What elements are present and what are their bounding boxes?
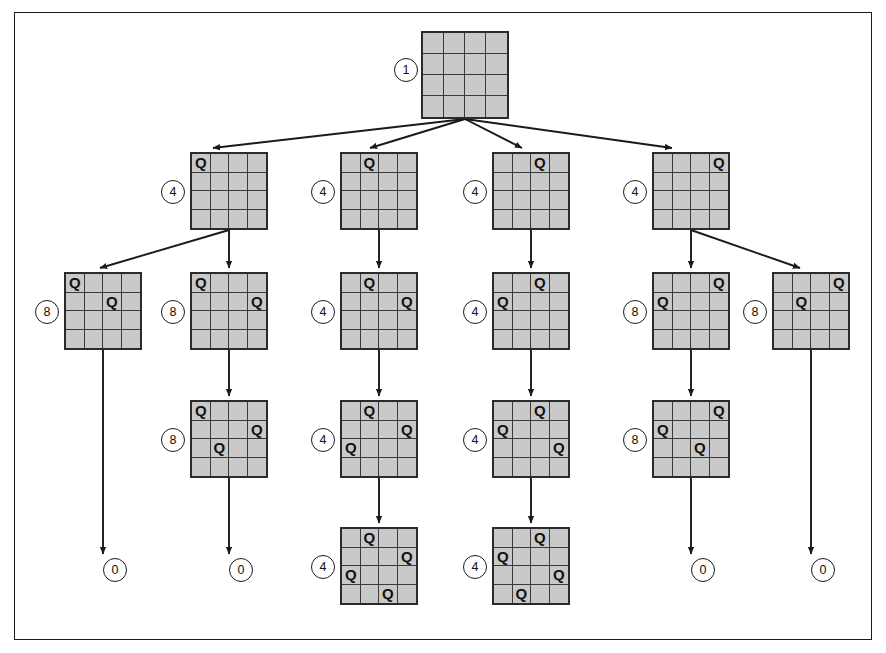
board-cell[interactable] bbox=[830, 293, 849, 312]
board-cell[interactable] bbox=[494, 529, 513, 548]
board-cell[interactable] bbox=[379, 421, 398, 440]
board-cell[interactable] bbox=[398, 402, 417, 421]
board-cell[interactable] bbox=[229, 173, 248, 192]
board-cell[interactable] bbox=[513, 458, 532, 477]
board-cell[interactable] bbox=[398, 566, 417, 585]
board-cell[interactable]: Q bbox=[103, 293, 122, 312]
board-cell[interactable] bbox=[494, 274, 513, 293]
board-cell[interactable] bbox=[229, 458, 248, 477]
board-cell[interactable] bbox=[398, 210, 417, 229]
board-cell[interactable] bbox=[342, 210, 361, 229]
board-cell[interactable] bbox=[494, 585, 513, 604]
board-cell[interactable] bbox=[423, 75, 444, 96]
board-cell[interactable] bbox=[444, 96, 465, 117]
board-cell[interactable] bbox=[103, 311, 122, 330]
board-cell[interactable] bbox=[531, 458, 550, 477]
board-cell[interactable] bbox=[85, 311, 104, 330]
board-cell[interactable] bbox=[465, 96, 486, 117]
board-cell[interactable] bbox=[513, 330, 532, 349]
board-cell[interactable] bbox=[673, 421, 692, 440]
chess-board[interactable]: QQ bbox=[340, 272, 418, 350]
board-cell[interactable] bbox=[248, 458, 267, 477]
board-cell[interactable]: Q bbox=[211, 439, 230, 458]
board-cell[interactable] bbox=[691, 191, 710, 210]
board-cell[interactable] bbox=[361, 210, 380, 229]
board-cell[interactable]: Q bbox=[398, 421, 417, 440]
board-cell[interactable] bbox=[361, 548, 380, 567]
board-cell[interactable] bbox=[398, 585, 417, 604]
board-cell[interactable] bbox=[192, 421, 211, 440]
board-cell[interactable] bbox=[531, 566, 550, 585]
board-cell[interactable] bbox=[486, 33, 507, 54]
board-cell[interactable] bbox=[211, 191, 230, 210]
board-cell[interactable]: Q bbox=[793, 293, 812, 312]
board-cell[interactable]: Q bbox=[691, 439, 710, 458]
board-cell[interactable] bbox=[494, 402, 513, 421]
board-cell[interactable]: Q bbox=[342, 439, 361, 458]
board-cell[interactable] bbox=[710, 439, 729, 458]
board-cell[interactable] bbox=[379, 173, 398, 192]
board-cell[interactable] bbox=[342, 458, 361, 477]
board-cell[interactable] bbox=[211, 421, 230, 440]
board-cell[interactable] bbox=[379, 191, 398, 210]
board-cell[interactable] bbox=[361, 173, 380, 192]
board-cell[interactable] bbox=[361, 458, 380, 477]
board-cell[interactable] bbox=[465, 33, 486, 54]
board-cell[interactable] bbox=[691, 402, 710, 421]
board-cell[interactable] bbox=[531, 439, 550, 458]
board-cell[interactable] bbox=[229, 439, 248, 458]
board-cell[interactable] bbox=[342, 402, 361, 421]
board-cell[interactable]: Q bbox=[361, 529, 380, 548]
board-cell[interactable] bbox=[211, 311, 230, 330]
board-cell[interactable] bbox=[550, 585, 569, 604]
board-cell[interactable] bbox=[654, 274, 673, 293]
board-cell[interactable] bbox=[342, 311, 361, 330]
board-cell[interactable] bbox=[423, 96, 444, 117]
board-cell[interactable] bbox=[248, 311, 267, 330]
board-cell[interactable] bbox=[361, 330, 380, 349]
board-cell[interactable] bbox=[710, 330, 729, 349]
chess-board[interactable] bbox=[421, 31, 509, 119]
board-cell[interactable] bbox=[192, 311, 211, 330]
board-cell[interactable] bbox=[513, 566, 532, 585]
chess-board[interactable]: QQ bbox=[772, 272, 850, 350]
board-cell[interactable] bbox=[673, 330, 692, 349]
board-cell[interactable] bbox=[379, 529, 398, 548]
board-cell[interactable] bbox=[830, 330, 849, 349]
board-cell[interactable]: Q bbox=[361, 274, 380, 293]
board-cell[interactable] bbox=[465, 54, 486, 75]
board-cell[interactable] bbox=[673, 458, 692, 477]
board-cell[interactable] bbox=[192, 439, 211, 458]
board-cell[interactable]: Q bbox=[192, 274, 211, 293]
board-cell[interactable] bbox=[513, 274, 532, 293]
board-cell[interactable] bbox=[398, 330, 417, 349]
board-cell[interactable] bbox=[361, 566, 380, 585]
board-cell[interactable] bbox=[192, 293, 211, 312]
board-cell[interactable] bbox=[211, 274, 230, 293]
board-cell[interactable]: Q bbox=[66, 274, 85, 293]
board-cell[interactable] bbox=[342, 421, 361, 440]
board-cell[interactable]: Q bbox=[550, 566, 569, 585]
board-cell[interactable] bbox=[513, 191, 532, 210]
board-cell[interactable] bbox=[513, 529, 532, 548]
board-cell[interactable] bbox=[342, 154, 361, 173]
board-cell[interactable] bbox=[811, 311, 830, 330]
board-cell[interactable] bbox=[494, 154, 513, 173]
chess-board[interactable]: QQQ bbox=[492, 400, 570, 478]
board-cell[interactable] bbox=[248, 274, 267, 293]
board-cell[interactable] bbox=[673, 173, 692, 192]
board-cell[interactable] bbox=[379, 439, 398, 458]
board-cell[interactable] bbox=[710, 458, 729, 477]
board-cell[interactable] bbox=[465, 75, 486, 96]
chess-board[interactable]: QQQQ bbox=[492, 527, 570, 605]
board-cell[interactable] bbox=[229, 293, 248, 312]
board-cell[interactable] bbox=[550, 293, 569, 312]
board-cell[interactable] bbox=[85, 330, 104, 349]
board-cell[interactable] bbox=[531, 293, 550, 312]
board-cell[interactable] bbox=[513, 173, 532, 192]
board-cell[interactable] bbox=[398, 173, 417, 192]
board-cell[interactable] bbox=[793, 274, 812, 293]
board-cell[interactable] bbox=[342, 548, 361, 567]
board-cell[interactable]: Q bbox=[192, 154, 211, 173]
board-cell[interactable] bbox=[691, 293, 710, 312]
